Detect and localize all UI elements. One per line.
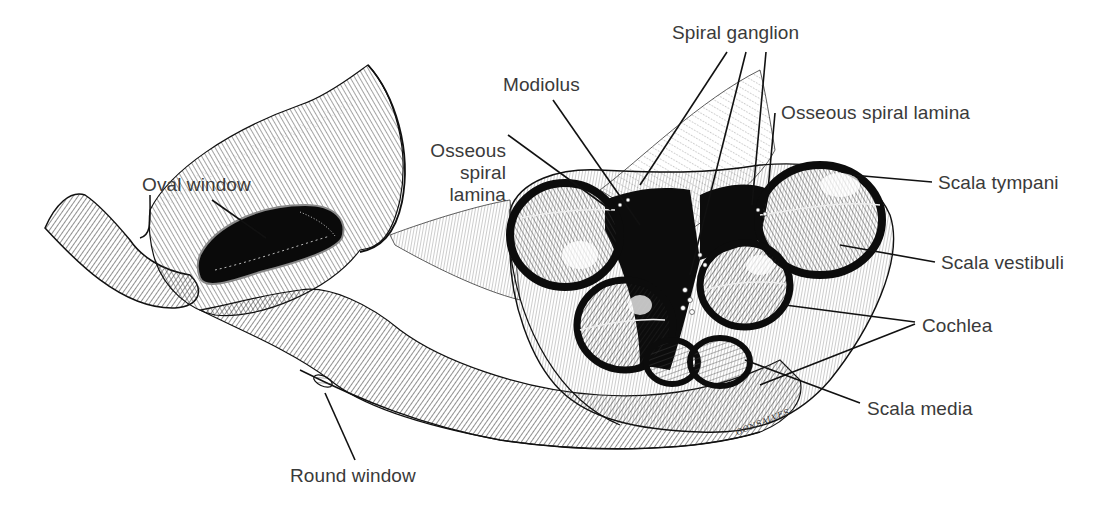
label-round-window: Round window (290, 465, 416, 487)
label-scala-vestibuli: Scala vestibuli (941, 252, 1064, 274)
label-cochlea: Cochlea (922, 315, 992, 337)
label-modiolus: Modiolus (503, 74, 580, 96)
label-scala-media: Scala media (867, 398, 973, 420)
label-spiral-ganglion: Spiral ganglion (672, 22, 799, 44)
label-osseous-spiral-lamina-right: Osseous spiral lamina (781, 102, 970, 124)
label-osseous-spiral-lamina-left: Osseous spiral lamina (428, 140, 506, 206)
leader-round-window (325, 393, 355, 460)
label-scala-tympani: Scala tympani (938, 172, 1059, 194)
label-oval-window: Oval window (142, 174, 251, 196)
cochlea-diagram: Spiral ganglion Modiolus Osseous spiral … (0, 0, 1114, 511)
